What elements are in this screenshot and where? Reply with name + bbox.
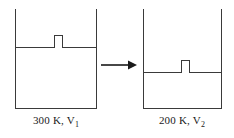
- piston-knob-icon-right: [181, 60, 190, 73]
- diagram-canvas: 300 K, V1 200 K, V2: [0, 0, 234, 138]
- right-arrow-icon: [100, 58, 138, 72]
- vessel-left-floor: [15, 108, 97, 109]
- vessel-right-caption: 200 K, V2: [134, 114, 230, 127]
- piston-knob-icon-left: [54, 35, 63, 48]
- vessel-right-wall-right: [221, 9, 222, 109]
- vessel-left-caption-subscript: 1: [75, 120, 79, 129]
- vessel-left-caption: 300 K, V1: [8, 114, 104, 127]
- vessel-right-floor: [143, 108, 222, 109]
- vessel-left-wall-right: [96, 9, 97, 109]
- vessel-right-caption-text: 200 K, V: [159, 114, 201, 126]
- gas-compression-diagram: 300 K, V1 200 K, V2: [0, 0, 234, 138]
- vessel-right-caption-subscript: 2: [201, 120, 205, 129]
- vessel-left-caption-text: 300 K, V: [33, 114, 75, 126]
- vessel-right-wall-left: [143, 9, 144, 109]
- vessel-left-wall-left: [15, 9, 16, 109]
